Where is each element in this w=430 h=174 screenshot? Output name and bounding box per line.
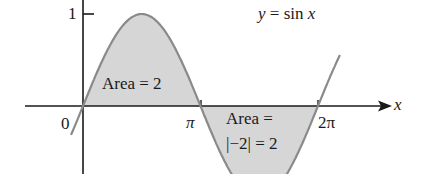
function-label-eq: = sin bbox=[266, 4, 308, 23]
sine-area-diagram bbox=[0, 0, 430, 174]
two-pi-label: 2π bbox=[318, 114, 335, 131]
y-tick-label: 1 bbox=[68, 5, 77, 22]
positive-area-label: Area = 2 bbox=[102, 75, 162, 92]
x-axis-label: x bbox=[394, 96, 402, 113]
function-label-y: y bbox=[258, 4, 266, 23]
pi-label: π bbox=[186, 114, 195, 131]
two-pi-text: 2π bbox=[318, 113, 335, 132]
function-label: y = sin x bbox=[258, 5, 315, 22]
origin-label: 0 bbox=[61, 115, 70, 132]
negative-area-label-line1: Area = bbox=[226, 110, 273, 127]
negative-area-label-line2: |−2| = 2 bbox=[226, 135, 277, 152]
function-label-x: x bbox=[308, 4, 316, 23]
